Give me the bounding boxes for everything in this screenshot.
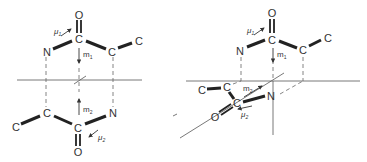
moment-label-m1: m1 — [83, 50, 93, 60]
dipole-arrow-mu1 — [61, 29, 71, 36]
upper-molecule: O C N C C μ1 m1 — [236, 7, 332, 62]
atom-C: C — [43, 107, 51, 119]
atom-C: C — [75, 33, 83, 45]
dipole-label-mu1: μ1 — [53, 27, 61, 37]
atom-C: C — [233, 97, 241, 109]
bond-C-C — [118, 43, 132, 48]
atom-N: N — [109, 107, 117, 119]
oblique-plane-line — [180, 73, 284, 138]
bond-C-C — [54, 116, 72, 124]
bond-N-C — [247, 40, 265, 47]
dipole-label-mu1: μ1 — [246, 26, 254, 36]
atom-N: N — [43, 46, 51, 58]
moment-label-m2: m2 — [243, 84, 253, 94]
dipole-label-mu2: μ2 — [97, 133, 105, 143]
lower-molecule-rotated: C C C N O m2 μ2 — [198, 81, 275, 123]
moment-label-m2: m2 — [83, 105, 93, 115]
left-panel: O C N C C μ1 m1 C C C N O m2 — [12, 9, 143, 158]
bond-N-C — [53, 41, 72, 49]
stray-mark — [173, 114, 177, 116]
atom-C: C — [12, 121, 20, 133]
dipole-label-mu2: μ2 — [240, 110, 248, 120]
atom-N: N — [236, 45, 244, 57]
atom-O: O — [75, 9, 84, 21]
moment-label-m1: m1 — [277, 50, 287, 60]
atom-C: C — [223, 81, 231, 93]
atom-C: C — [299, 44, 307, 56]
lower-molecule: C C C N O m2 μ2 — [12, 99, 117, 158]
projection-line — [233, 81, 241, 84]
atom-C: C — [135, 35, 143, 47]
bond-C-C — [207, 88, 221, 89]
atom-O: O — [211, 111, 220, 123]
bond-C-C — [309, 40, 321, 46]
atom-O: O — [268, 7, 277, 19]
atom-C: C — [268, 34, 276, 46]
bond-C-C — [279, 41, 297, 48]
atom-C: C — [74, 122, 82, 134]
atom-C: C — [108, 46, 116, 58]
dimer-diagram: O C N C C μ1 m1 C C C N O m2 — [0, 0, 367, 162]
atom-O: O — [74, 146, 83, 158]
bond-C-N — [85, 116, 106, 124]
dipole-arrow-mu2 — [89, 130, 98, 137]
dipole-arrow-mu1 — [254, 28, 264, 35]
atom-N: N — [267, 90, 275, 102]
bond-C-C — [86, 41, 106, 49]
right-panel: O C N C C μ1 m1 C C C N O m2 — [180, 7, 360, 138]
atom-C: C — [324, 32, 332, 44]
upper-molecule: O C N C C μ1 m1 — [43, 9, 143, 63]
atom-C: C — [198, 84, 206, 96]
projection-line — [280, 81, 303, 94]
bond-C-C — [21, 116, 40, 124]
